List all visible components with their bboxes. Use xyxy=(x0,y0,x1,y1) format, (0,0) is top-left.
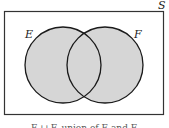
set-e-label: E xyxy=(24,28,33,41)
set-f-label: F xyxy=(133,28,142,41)
universe-label: S xyxy=(158,0,166,12)
venn-diagram: S E F E ∪ F, union of E and F xyxy=(0,0,169,128)
caption: E ∪ F, union of E and F xyxy=(31,123,137,128)
